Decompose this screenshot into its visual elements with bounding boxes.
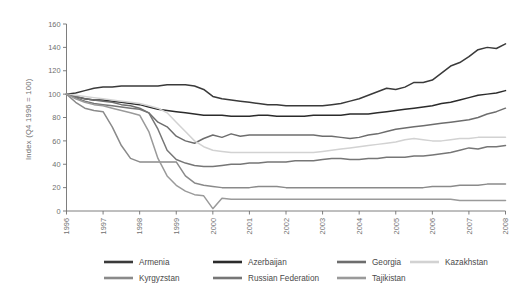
y-tick-label: 100 — [48, 90, 60, 99]
y-axis-label-text: Index (Q4 1996 = 100) — [24, 78, 33, 160]
x-tick-label: 1998 — [135, 218, 144, 234]
y-tick-label: 160 — [48, 20, 60, 29]
chart-container: Index (Q4 1996 = 100) 020406080100120140… — [0, 0, 519, 296]
y-axis-label: Index (Q4 1996 = 100) — [24, 78, 33, 160]
legend-label: Kazakhstan — [445, 258, 488, 267]
y-tick-label: 120 — [48, 66, 60, 75]
x-tick-label: 2001 — [245, 218, 254, 234]
y-tick-label: 80 — [52, 113, 60, 122]
line-chart-figure: Index (Q4 1996 = 100) 020406080100120140… — [0, 0, 519, 296]
x-tick-label: 2006 — [428, 218, 437, 234]
y-tick-label: 0 — [56, 207, 60, 216]
legend-label: Russian Federation — [248, 274, 319, 283]
x-tick-label: 2000 — [209, 218, 218, 234]
x-tick-label: 2002 — [282, 218, 291, 234]
x-tick-label: 2005 — [392, 218, 401, 234]
x-tick-label: 2008 — [501, 218, 510, 234]
y-tick-label: 60 — [52, 137, 60, 146]
y-tick-label: 40 — [52, 160, 60, 169]
legend-label: Tajikistan — [372, 274, 406, 283]
y-tick-label: 140 — [48, 43, 60, 52]
x-tick-label: 2004 — [355, 218, 364, 234]
x-tick-label: 2003 — [318, 218, 327, 234]
legend-label: Azerbaijan — [248, 258, 287, 267]
chart-background — [0, 0, 519, 296]
x-tick-label: 1996 — [62, 218, 71, 234]
legend-label: Kyrgyzstan — [139, 274, 180, 283]
x-tick-label: 2007 — [465, 218, 474, 234]
x-tick-label: 1997 — [99, 218, 108, 234]
legend-label: Georgia — [372, 258, 402, 267]
x-tick-label: 1999 — [172, 218, 181, 234]
y-tick-label: 20 — [52, 183, 60, 192]
legend-label: Armenia — [139, 258, 170, 267]
